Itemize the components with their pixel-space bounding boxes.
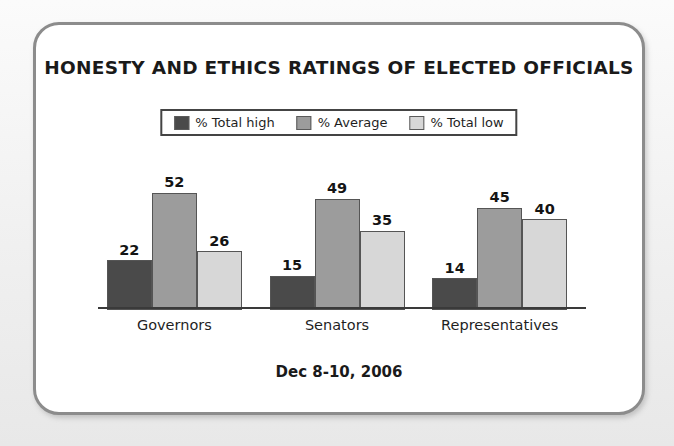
legend-label-total-low: % Total low <box>431 115 504 130</box>
category-label: Senators <box>270 317 405 333</box>
bar-rect[interactable] <box>432 278 477 310</box>
bar-value-label: 49 <box>327 181 347 196</box>
category-label: Governors <box>107 317 242 333</box>
chart-legend: % Total high % Average % Total low <box>160 109 517 136</box>
bar-value-label: 40 <box>535 202 555 217</box>
bar-column[interactable]: 14 <box>432 175 477 310</box>
bar-column[interactable]: 22 <box>107 175 152 310</box>
bar-column[interactable]: 49 <box>315 175 360 310</box>
chart-title: HONESTY AND ETHICS RATINGS OF ELECTED OF… <box>36 57 642 78</box>
bar-rect[interactable] <box>522 219 567 310</box>
bar-value-label: 22 <box>119 243 139 258</box>
bar-value-label: 26 <box>209 234 229 249</box>
bar-group: 225226 <box>107 175 242 310</box>
legend-item-total-high: % Total high <box>174 115 274 130</box>
bar-group: 144540 <box>432 175 567 310</box>
legend-swatch-total-high <box>174 116 189 130</box>
bar-rect[interactable] <box>315 199 360 310</box>
plot-area: 225226154935144540 <box>98 175 586 310</box>
bar-value-label: 14 <box>445 261 465 276</box>
legend-label-average: % Average <box>318 115 388 130</box>
bar-group: 154935 <box>270 175 405 310</box>
legend-swatch-average <box>297 116 312 130</box>
legend-item-total-low: % Total low <box>410 115 504 130</box>
bar-value-label: 45 <box>490 190 510 205</box>
legend-label-total-high: % Total high <box>195 115 274 130</box>
bar-rect[interactable] <box>152 193 197 311</box>
bar-rect[interactable] <box>360 231 405 310</box>
x-axis-line <box>98 307 586 309</box>
bar-column[interactable]: 52 <box>152 175 197 310</box>
bar-rect[interactable] <box>197 251 242 310</box>
bar-rect[interactable] <box>107 260 152 310</box>
category-label: Representatives <box>432 317 567 333</box>
legend-item-average: % Average <box>297 115 388 130</box>
bar-column[interactable]: 15 <box>270 175 315 310</box>
bar-rect[interactable] <box>270 276 315 310</box>
bar-column[interactable]: 26 <box>197 175 242 310</box>
bar-value-label: 52 <box>164 175 184 190</box>
bar-rect[interactable] <box>477 208 522 310</box>
bar-value-label: 15 <box>282 258 302 273</box>
legend-swatch-total-low <box>410 116 425 130</box>
chart-card: HONESTY AND ETHICS RATINGS OF ELECTED OF… <box>33 22 645 415</box>
bar-column[interactable]: 45 <box>477 175 522 310</box>
bar-column[interactable]: 40 <box>522 175 567 310</box>
bar-column[interactable]: 35 <box>360 175 405 310</box>
bar-value-label: 35 <box>372 213 392 228</box>
chart-footer-note: Dec 8-10, 2006 <box>36 363 642 381</box>
